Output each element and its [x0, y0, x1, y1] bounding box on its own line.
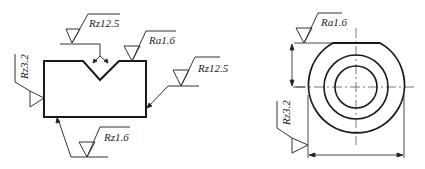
dimension-flat-height	[290, 43, 333, 87]
roughness-label-notch: Rz12.5	[88, 17, 120, 29]
drawing-canvas: Rz12.5 Ra1.6 Rz3.2 Rz12.5	[0, 0, 425, 169]
roughness-label-right-side: Rz12.5	[197, 62, 229, 74]
center-lines	[296, 28, 416, 145]
roughness-label-bottom: Rz1.6	[103, 131, 129, 143]
roughness-label-outer-diameter: Rz3.2	[280, 100, 292, 126]
left-view: Rz12.5 Ra1.6 Rz3.2 Rz12.5	[15, 14, 229, 157]
part-outline	[44, 61, 146, 117]
roughness-label-left-side: Rz3.2	[18, 54, 30, 80]
roughness-label-top-right: Ra1.6	[148, 34, 175, 46]
right-view: Ra1.6 Rz3.2	[277, 13, 416, 158]
roughness-label-flat-top: Ra1.6	[320, 16, 347, 28]
